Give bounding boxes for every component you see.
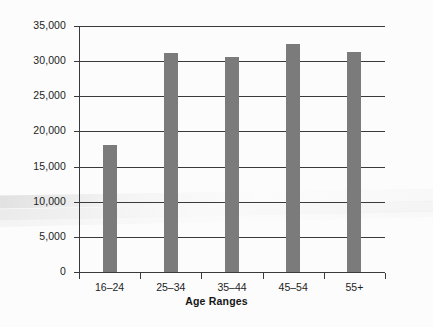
bar-chart: 05,00010,00015,00020,00025,00030,00035,0… <box>0 0 433 327</box>
bar <box>347 52 361 272</box>
y-axis-tick-label: 35,000 <box>33 19 66 31</box>
y-axis-tick-label: 25,000 <box>33 89 66 101</box>
y-axis-tick-label: 10,000 <box>33 195 66 207</box>
y-axis-tick-label: 0 <box>60 265 66 277</box>
bar <box>286 44 300 272</box>
bar <box>164 53 178 272</box>
x-axis-tick-label: 55+ <box>314 281 394 293</box>
x-axis-tick <box>385 273 386 279</box>
x-axis-tick <box>140 273 141 279</box>
y-axis-tick-label: 30,000 <box>33 54 66 66</box>
bar <box>103 145 117 272</box>
y-axis-tick-label: 20,000 <box>33 124 66 136</box>
x-axis-tick <box>79 273 80 279</box>
y-axis-tick-label: 15,000 <box>33 160 66 172</box>
bar <box>225 57 239 272</box>
y-axis-tick-label: 5,000 <box>39 230 66 242</box>
bar-series <box>79 26 385 272</box>
x-axis-tick <box>263 273 264 279</box>
x-axis-tick <box>324 273 325 279</box>
x-axis-tick <box>201 273 202 279</box>
x-axis-title: Age Ranges <box>0 295 433 307</box>
x-axis-line <box>79 272 385 273</box>
